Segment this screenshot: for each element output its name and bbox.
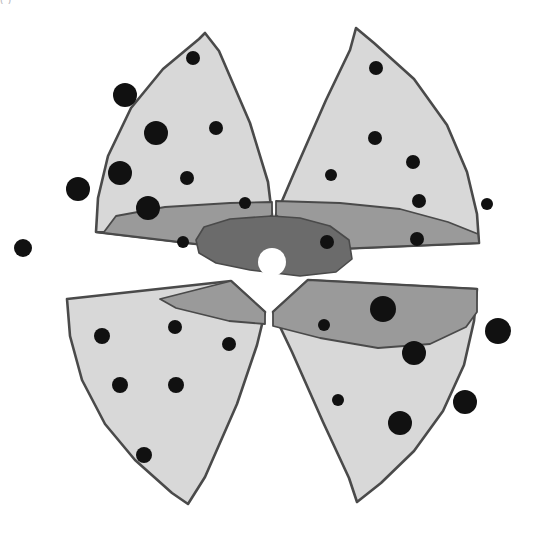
data-point-dot bbox=[144, 121, 168, 145]
data-point-dot bbox=[453, 390, 477, 414]
data-point-dot bbox=[108, 161, 132, 185]
data-point-dot bbox=[402, 341, 426, 365]
center-void-circle bbox=[258, 248, 286, 276]
data-point-dot bbox=[325, 169, 337, 181]
figure-root: ( ) bbox=[0, 0, 545, 539]
data-point-dot bbox=[66, 177, 90, 201]
center-void-layer bbox=[258, 248, 286, 276]
data-point-dot bbox=[239, 197, 251, 209]
data-point-dot bbox=[481, 198, 493, 210]
data-point-dot bbox=[168, 377, 184, 393]
data-point-dot bbox=[410, 232, 424, 246]
data-point-dot bbox=[332, 394, 344, 406]
data-point-dot bbox=[112, 377, 128, 393]
data-point-dot bbox=[113, 83, 137, 107]
caption-text-sliver: ( ) bbox=[0, 0, 545, 4]
data-point-dot bbox=[320, 235, 334, 249]
data-point-dot bbox=[14, 239, 32, 257]
data-point-dot bbox=[368, 131, 382, 145]
data-point-dot bbox=[388, 411, 412, 435]
data-point-dot bbox=[370, 296, 396, 322]
data-point-dot bbox=[186, 51, 200, 65]
data-point-dot bbox=[136, 196, 160, 220]
data-point-dot bbox=[209, 121, 223, 135]
data-point-dot bbox=[180, 171, 194, 185]
data-point-dot bbox=[222, 337, 236, 351]
data-point-dot bbox=[318, 319, 330, 331]
data-point-dot bbox=[369, 61, 383, 75]
data-point-dot bbox=[412, 194, 426, 208]
data-point-dot bbox=[177, 236, 189, 248]
data-point-dot bbox=[406, 155, 420, 169]
data-point-dot bbox=[136, 447, 152, 463]
data-point-dot bbox=[168, 320, 182, 334]
data-point-dot bbox=[485, 318, 511, 344]
data-point-dot bbox=[94, 328, 110, 344]
radial-sector-diagram bbox=[0, 0, 545, 539]
